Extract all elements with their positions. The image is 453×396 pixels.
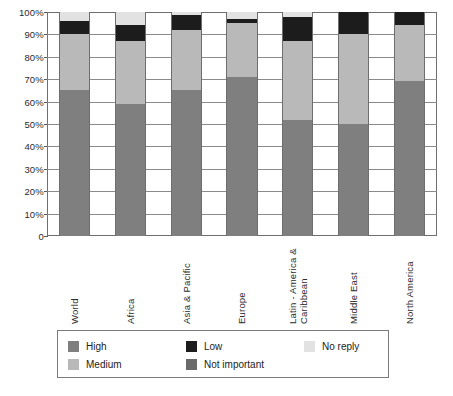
stacked-bar[interactable] [59,12,90,236]
bar-segment-medium[interactable] [172,30,201,90]
legend-item[interactable]: Not important [186,359,304,370]
x-axis-tick-label: World [69,238,80,324]
bar-slot [326,12,382,236]
legend-item[interactable]: Low [186,341,304,352]
y-tick-label: 20% [24,186,44,197]
bar-segment-low[interactable] [116,25,145,41]
y-tick-label: 80% [24,51,44,62]
y-tick-label: 10% [24,208,44,219]
legend-swatch-icon [186,359,197,370]
legend-label: Medium [86,359,122,370]
legend-item[interactable]: High [68,341,186,352]
x-label-slot: Middle East [326,238,382,324]
x-label-slot: North America [381,238,437,324]
legend-item[interactable]: No reply [304,341,378,352]
bar-segment-noreply[interactable] [116,12,145,25]
x-axis-tick-label: Africa [125,238,136,324]
bar-segment-high[interactable] [60,90,89,236]
y-tick-label: 100% [19,7,44,18]
stacked-bar[interactable] [338,12,369,236]
legend-swatch-icon [186,341,197,352]
stacked-bar[interactable] [282,12,313,236]
x-label-slot: Asia & Pacific [158,238,214,324]
legend-item[interactable]: Medium [68,359,186,370]
y-tick-label: 90% [24,29,44,40]
bar-segment-low[interactable] [172,15,201,30]
bar-segment-medium[interactable] [395,25,424,81]
bar-segment-medium[interactable] [339,34,368,124]
bar-segment-high[interactable] [116,104,145,236]
x-label-slot: Latin - America & Caribbean [270,238,326,324]
y-tick-label: 50% [24,119,44,130]
stacked-bar[interactable] [171,12,202,236]
y-tick-label: 30% [24,163,44,174]
stacked-bar-chart: 100%90%80%70%60%50%40%30%20%10%0 WorldAf… [0,0,453,396]
x-axis-tick-label: Asia & Pacific [181,238,192,324]
stacked-bar[interactable] [226,12,257,236]
bar-slot [47,12,103,236]
stacked-bar[interactable] [394,12,425,236]
bar-segment-noreply[interactable] [60,12,89,21]
legend-label: Low [204,341,222,352]
bar-slot [214,12,270,236]
legend-swatch-icon [68,341,79,352]
bar-segment-medium[interactable] [116,41,145,104]
y-tick-label: 70% [24,74,44,85]
x-axis-tick-label: Europe [236,238,247,324]
x-label-slot: Europe [214,238,270,324]
bar-segment-high[interactable] [172,90,201,236]
x-axis-tick-label: Latin - America & Caribbean [287,238,309,324]
bar-segment-high[interactable] [227,77,256,236]
legend-label: No reply [322,341,359,352]
bar-slot [103,12,159,236]
bar-segment-medium[interactable] [60,34,89,90]
bar-segment-medium[interactable] [227,23,256,77]
stacked-bar[interactable] [115,12,146,236]
y-tick-label: 40% [24,141,44,152]
legend-grid: HighLowNo replyMediumNot important [58,331,388,377]
plot-area [47,12,437,236]
bar-segment-medium[interactable] [283,41,312,119]
x-axis-tick-label: North America [404,238,415,324]
bar-slot [158,12,214,236]
x-label-slot: World [47,238,103,324]
chart-legend: HighLowNo replyMediumNot important [57,330,389,378]
y-axis: 100%90%80%70%60%50%40%30%20%10%0 [0,12,44,236]
y-tick-label: 60% [24,96,44,107]
bar-segment-low[interactable] [339,12,368,34]
bar-series-group [47,12,437,236]
legend-label: High [86,341,107,352]
bar-segment-noreply[interactable] [227,12,256,19]
bar-segment-low[interactable] [60,21,89,34]
bar-segment-low[interactable] [283,17,312,42]
bar-segment-high[interactable] [283,120,312,236]
bar-segment-high[interactable] [395,81,424,236]
y-tick-mark [44,236,48,237]
bar-segment-high[interactable] [339,124,368,236]
bar-slot [381,12,437,236]
x-axis-tick-label: Middle East [348,238,359,324]
x-label-slot: Africa [103,238,159,324]
legend-swatch-icon [68,359,79,370]
bar-slot [270,12,326,236]
bar-segment-low[interactable] [395,12,424,25]
x-axis-labels: WorldAfricaAsia & PacificEuropeLatin - A… [47,238,437,324]
legend-label: Not important [204,359,264,370]
legend-swatch-icon [304,341,315,352]
